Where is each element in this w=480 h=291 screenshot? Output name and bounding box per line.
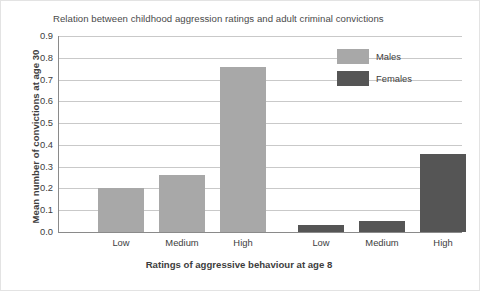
legend-label: Females [376, 73, 412, 84]
bar [359, 221, 405, 232]
x-axis-tick-label: High [210, 237, 276, 248]
x-axis-tick-label: High [410, 237, 476, 248]
y-axis-tick-labels: 0.90.80.70.60.50.40.30.20.10.0 [21, 36, 53, 232]
bar [98, 188, 144, 232]
y-axis-tick-label: 0.0 [23, 226, 53, 237]
chart-title: Relation between childhood aggression ra… [53, 13, 384, 24]
y-axis-tick-label: 0.3 [23, 161, 53, 172]
x-axis-tick-label: Low [288, 237, 354, 248]
legend-item: Females [337, 69, 412, 87]
y-axis-tick-label: 0.2 [23, 182, 53, 193]
y-axis-tick-label: 0.6 [23, 95, 53, 106]
bar [220, 67, 266, 233]
legend-item: Males [337, 47, 412, 65]
y-axis-tick-label: 0.4 [23, 139, 53, 150]
bar [420, 154, 466, 232]
gridline [58, 36, 462, 37]
legend-label: Males [376, 51, 401, 62]
legend-swatch [337, 49, 369, 64]
y-axis-tick-label: 0.7 [23, 74, 53, 85]
y-axis-tick-label: 0.9 [23, 30, 53, 41]
y-axis-tick-label: 0.1 [23, 204, 53, 215]
gridline [58, 232, 462, 233]
legend-swatch [337, 71, 369, 86]
y-axis-line [58, 36, 59, 232]
x-axis-tick-label: Medium [149, 237, 215, 248]
y-axis-tick-label: 0.8 [23, 52, 53, 63]
chart-figure: Relation between childhood aggression ra… [0, 0, 480, 291]
bar [298, 225, 344, 232]
x-axis-tick-label: Medium [349, 237, 415, 248]
bar [159, 175, 205, 232]
chart-legend: MalesFemales [337, 47, 412, 91]
x-axis-tick-label: Low [88, 237, 154, 248]
y-axis-tick-label: 0.5 [23, 117, 53, 128]
x-axis-title: Ratings of aggressive behaviour at age 8 [58, 259, 420, 270]
